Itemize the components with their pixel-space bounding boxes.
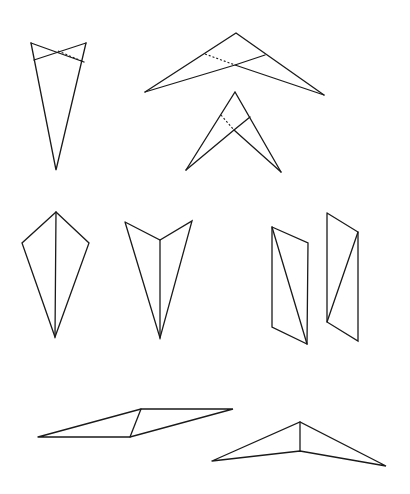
- shape-parallelogram-left: [272, 227, 308, 344]
- shape-folded-kite-narrow: [31, 43, 86, 170]
- solid-edge: [125, 221, 192, 338]
- solid-edge: [55, 212, 56, 337]
- solid-edge: [234, 130, 281, 172]
- shape-flat-parallelogram: [38, 409, 233, 437]
- solid-edge: [272, 227, 307, 344]
- hidden-fold-line: [221, 115, 234, 130]
- shape-narrow-folded-chevron: [186, 92, 281, 172]
- solid-edge: [327, 232, 358, 322]
- solid-edge: [145, 55, 265, 92]
- solid-edge: [212, 422, 386, 466]
- shape-arrowhead-with-spine: [125, 221, 192, 338]
- shape-kite-with-spine: [22, 212, 89, 337]
- solid-edge: [130, 409, 141, 437]
- shape-parallelogram-right: [327, 213, 358, 341]
- solid-edge: [186, 117, 250, 170]
- shape-wide-folded-chevron: [145, 33, 324, 95]
- figure-canvas: [0, 0, 410, 494]
- geometric-shapes-figure: [0, 0, 410, 494]
- solid-edge: [235, 65, 324, 95]
- solid-edge: [34, 43, 86, 60]
- hidden-fold-line: [205, 54, 235, 65]
- shape-flat-dart: [212, 422, 386, 466]
- solid-edge: [31, 43, 86, 170]
